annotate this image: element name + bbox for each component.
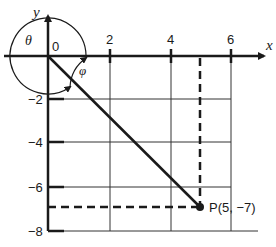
coordinate-diagram: y x 0 2 4 6 −2 −4 −6 −8 θ φ P(5, −7) bbox=[0, 0, 276, 247]
axes bbox=[4, 16, 264, 231]
y-tick-label-minus4: −4 bbox=[28, 135, 43, 150]
y-tick-label-minus8: −8 bbox=[28, 224, 43, 239]
phi-label: φ bbox=[79, 63, 86, 78]
y-tick-label-minus2: −2 bbox=[28, 92, 43, 107]
theta-label: θ bbox=[25, 33, 32, 48]
x-tick-label-2: 2 bbox=[106, 32, 113, 47]
point-p bbox=[196, 203, 204, 211]
ray-origin-to-p bbox=[48, 56, 200, 207]
x-tick-label-4: 4 bbox=[167, 32, 174, 47]
x-tick-label-6: 6 bbox=[227, 32, 234, 47]
y-axis-label: y bbox=[31, 4, 40, 20]
x-axis-label: x bbox=[265, 37, 273, 53]
point-p-label: P(5, −7) bbox=[209, 200, 256, 215]
origin-label: 0 bbox=[52, 39, 59, 54]
y-tick-label-minus6: −6 bbox=[28, 180, 43, 195]
